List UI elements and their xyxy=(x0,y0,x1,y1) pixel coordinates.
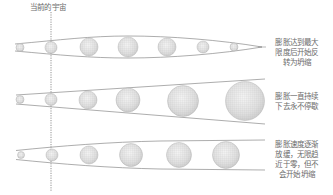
sphere xyxy=(18,152,25,159)
scenario-label-recollapse: 膨胀达到最大 限度后开始反 转为坍缩 xyxy=(263,38,331,68)
sphere xyxy=(116,88,140,112)
scenario-eternal-expansion xyxy=(16,79,265,124)
sphere xyxy=(16,44,24,52)
scenario-recollapse xyxy=(15,36,266,58)
sphere xyxy=(230,43,238,51)
sphere xyxy=(45,94,57,106)
sphere xyxy=(79,91,97,109)
sphere xyxy=(197,41,209,53)
sphere xyxy=(118,37,138,57)
current-universe-label: 当前的宇宙 xyxy=(22,3,74,13)
sphere xyxy=(213,142,240,169)
scenario-decelerating-expansion xyxy=(16,140,265,170)
scenario-label-decelerating-expansion: 膨胀速度逐渐 放缓，无限趋 近于零，但不 会开始坍缩 xyxy=(263,140,331,180)
sphere xyxy=(167,143,192,168)
scenario-label-eternal-expansion: 膨胀一直持续 下去永不停歇 xyxy=(263,92,331,112)
sphere xyxy=(158,38,176,56)
sphere xyxy=(80,146,98,164)
sphere xyxy=(120,144,143,167)
sphere xyxy=(16,96,24,104)
sphere xyxy=(80,38,98,56)
sphere xyxy=(168,86,199,117)
sphere xyxy=(226,82,265,121)
sphere xyxy=(46,149,58,161)
sphere xyxy=(45,42,57,54)
